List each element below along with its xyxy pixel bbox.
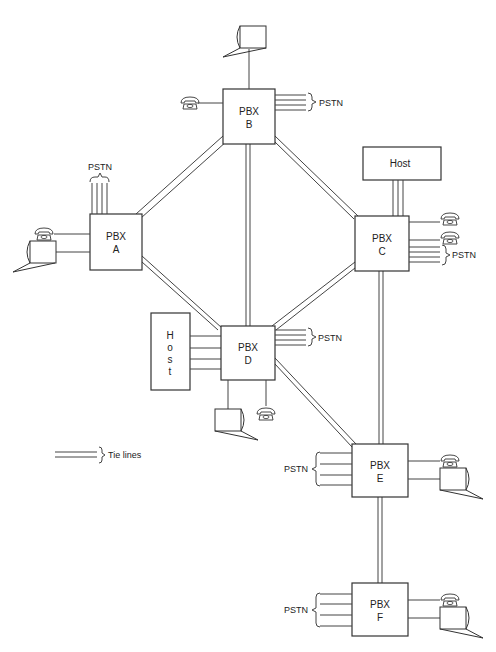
pbx-network-diagram: PBX A PSTN PBX B PSTN Host — [0, 0, 496, 652]
pbx-f-id: F — [377, 612, 383, 623]
legend: Tie lines — [55, 447, 142, 463]
pbx-e: PBX E PSTN — [284, 444, 483, 499]
terminal-icon — [215, 409, 258, 440]
host-d-char: o — [167, 342, 173, 353]
pstn-label-c: PSTN — [452, 250, 476, 260]
pbx-a: PBX A PSTN — [13, 162, 142, 272]
terminal-icon — [13, 241, 56, 272]
pbx-c-label: PBX — [372, 233, 392, 244]
pbx-d-id: D — [244, 355, 251, 366]
pbx-e-id: E — [377, 473, 384, 484]
pstn-label-a: PSTN — [88, 162, 112, 172]
pbx-f: PBX F PSTN — [284, 583, 483, 638]
legend-tie-lines-label: Tie lines — [108, 450, 142, 460]
pbx-b: PBX B PSTN — [181, 26, 343, 144]
terminal-icon — [440, 607, 483, 638]
telephone-icon — [35, 228, 53, 240]
pstn-label-f: PSTN — [284, 605, 308, 615]
telephone-icon — [441, 594, 459, 606]
pstn-label-b: PSTN — [319, 98, 343, 108]
telephone-icon — [441, 455, 459, 467]
pbx-a-id: A — [113, 244, 120, 255]
terminal-icon — [440, 468, 483, 499]
telephone-icon — [257, 408, 275, 420]
terminal-icon — [223, 26, 266, 57]
pbx-c: PBX C PSTN — [355, 213, 476, 271]
pbx-a-label: PBX — [106, 231, 126, 242]
host-c: Host — [363, 147, 441, 216]
pbx-b-label: PBX — [239, 106, 259, 117]
telephone-icon — [441, 232, 459, 244]
host-d: H o s t — [151, 313, 221, 390]
telephone-icon — [181, 97, 199, 109]
pbx-b-id: B — [246, 119, 253, 130]
telephone-icon — [441, 213, 459, 225]
pstn-label-e: PSTN — [284, 464, 308, 474]
host-d-char: t — [169, 366, 172, 377]
pbx-f-label: PBX — [370, 599, 390, 610]
host-c-label: Host — [390, 158, 411, 169]
host-d-char: H — [166, 330, 173, 341]
pbx-e-label: PBX — [370, 460, 390, 471]
pstn-label-d: PSTN — [318, 333, 342, 343]
pbx-c-id: C — [378, 246, 385, 257]
pbx-d-label: PBX — [238, 342, 258, 353]
pbx-d: PBX D PSTN — [215, 326, 342, 440]
host-d-char: s — [168, 354, 173, 365]
